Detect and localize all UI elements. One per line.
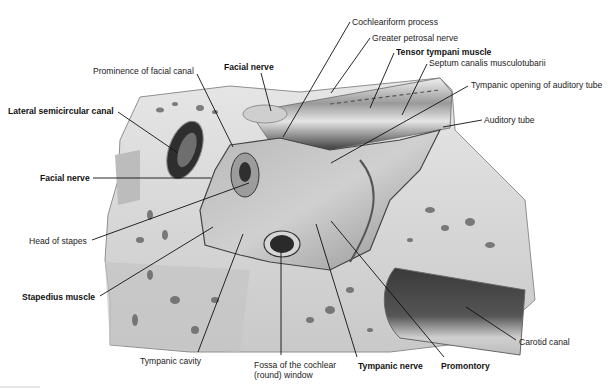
label-greater-petrosal-nerve: Greater petrosal nerve bbox=[372, 33, 458, 43]
anatomy-figure: Cochleariform processGreater petrosal ne… bbox=[0, 0, 613, 390]
label-septum-canalis-musculotubarii: Septum canalis musculotubarii bbox=[429, 58, 546, 68]
label-facial-nerve-left: Facial nerve bbox=[40, 173, 90, 183]
label-head-of-stapes: Head of stapes bbox=[29, 236, 87, 246]
label-tympanic-nerve: Tympanic nerve bbox=[358, 361, 423, 371]
label-prominence-of-facial-canal: Prominence of facial canal bbox=[93, 66, 194, 76]
label-auditory-tube: Auditory tube bbox=[484, 115, 535, 125]
label-fossa-of-cochlear-window: Fossa of the cochlear(round) window bbox=[254, 360, 336, 380]
label-facial-nerve-top: Facial nerve bbox=[224, 62, 274, 72]
label-promontory: Promontory bbox=[441, 361, 490, 371]
label-stapedius-muscle: Stapedius muscle bbox=[22, 292, 95, 302]
label-carotid-canal: Carotid canal bbox=[519, 337, 570, 347]
label-lateral-semicircular-canal: Lateral semicircular canal bbox=[8, 106, 114, 116]
footer-rule bbox=[0, 386, 40, 388]
label-tympanic-opening-of-auditory-tube: Tympanic opening of auditory tube bbox=[471, 80, 602, 90]
leader-greater-petrosal-nerve bbox=[331, 38, 370, 93]
label-tympanic-cavity: Tympanic cavity bbox=[140, 356, 201, 366]
label-cochleariform-process: Cochleariform process bbox=[352, 17, 438, 27]
label-tensor-tympani-muscle: Tensor tympani muscle bbox=[396, 47, 491, 57]
